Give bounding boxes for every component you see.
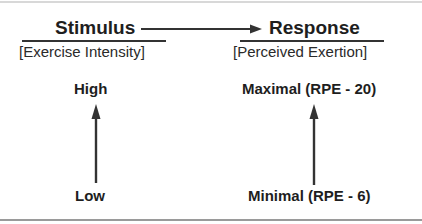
response-low-label: Minimal (RPE - 6) <box>248 187 371 204</box>
response-high-label: Maximal (RPE - 20) <box>242 80 376 97</box>
intensity-arrow-up <box>92 104 101 183</box>
bottom-border <box>0 219 422 221</box>
stimulus-high-label: High <box>74 80 107 97</box>
stimulus-low-label: Low <box>75 187 105 204</box>
stimulus-to-response-arrow <box>141 25 262 34</box>
exertion-arrow-up <box>310 104 319 185</box>
